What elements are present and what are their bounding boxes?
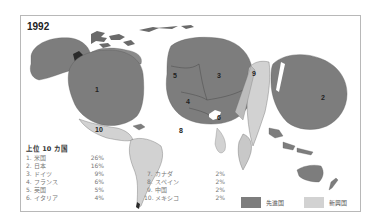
country-name: カナダ <box>155 170 173 177</box>
share-value: 4% <box>86 194 104 202</box>
rank-number: 2. <box>26 162 32 169</box>
rank-row-7: 7. カナダ 2% <box>147 170 173 178</box>
share-value: 2% <box>207 178 225 186</box>
rank-number: 3. <box>26 170 32 177</box>
share-value: 2% <box>207 194 225 202</box>
region-caribbean <box>133 124 145 130</box>
developed-label: 先進国 <box>266 198 284 207</box>
rank-row-6: 6. イタリア 4% <box>26 194 58 202</box>
legend-developed: 先進国 <box>241 197 284 208</box>
rank-row-4: 4. フランス 6% <box>26 178 58 186</box>
rank-number: 4. <box>26 178 32 185</box>
region-india <box>238 134 251 170</box>
label-italy: 6 <box>217 114 221 121</box>
country-name: 英国 <box>34 186 46 193</box>
region-usa <box>68 50 144 126</box>
rank-row-1: 1. 米国 26% <box>26 154 46 162</box>
region-australia <box>297 165 323 182</box>
emerging-label: 新興国 <box>329 198 347 207</box>
legend-emerging: 新興国 <box>304 197 347 208</box>
developed-swatch <box>241 197 261 208</box>
rank-number: 8. <box>147 178 153 185</box>
rank-number: 1. <box>26 154 32 161</box>
rank-row-8: 8. スペイン 2% <box>147 178 179 186</box>
label-china: 9 <box>252 70 256 77</box>
region-africa-fragment <box>215 128 226 153</box>
rank-number: 6. <box>26 194 32 201</box>
country-name: イタリア <box>34 194 58 201</box>
country-name: ドイツ <box>34 170 52 177</box>
share-value: 9% <box>86 170 104 178</box>
rank-number: 5. <box>26 186 32 193</box>
country-name: 中国 <box>155 186 167 193</box>
rank-row-3: 3. ドイツ 9% <box>26 170 52 178</box>
label-mexico: 10 <box>95 126 103 133</box>
country-name: 日本 <box>34 162 46 169</box>
share-value: 6% <box>86 178 104 186</box>
country-name: メキシコ <box>155 194 179 201</box>
country-name: フランス <box>34 178 58 185</box>
label-japan: 2 <box>321 94 325 101</box>
region-southeast-asia <box>269 128 313 155</box>
share-value: 2% <box>207 170 225 178</box>
country-name: スペイン <box>155 178 179 185</box>
rank-row-10: 10. メキシコ 2% <box>144 194 179 202</box>
rank-number: 9. <box>147 186 153 193</box>
label-germany: 3 <box>217 72 221 79</box>
rank-row-5: 5. 英国 5% <box>26 186 46 194</box>
label-spain: 8 <box>179 127 183 134</box>
share-value: 16% <box>86 162 104 170</box>
rank-row-9: 9. 中国 2% <box>147 186 167 194</box>
region-new-zealand <box>329 178 338 190</box>
label-usa: 1 <box>95 86 99 93</box>
share-value: 5% <box>86 186 104 194</box>
rank-number: 7. <box>147 170 153 177</box>
rank-row-2: 2. 日本 16% <box>26 162 46 170</box>
top10-title: 上位 10 カ国 <box>26 143 68 153</box>
label-uk: 5 <box>173 72 177 79</box>
rank-number: 10. <box>144 194 154 201</box>
map-frame: 1992 <box>20 15 361 212</box>
label-france: 4 <box>186 98 190 105</box>
cartogram-map: 1 2 3 4 5 6 8 9 10 <box>21 16 362 213</box>
share-value: 26% <box>86 154 104 162</box>
country-name: 米国 <box>34 154 46 161</box>
emerging-swatch <box>304 197 324 208</box>
share-value: 2% <box>207 186 225 194</box>
